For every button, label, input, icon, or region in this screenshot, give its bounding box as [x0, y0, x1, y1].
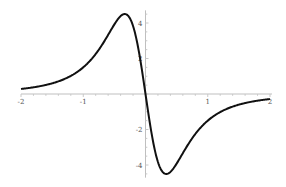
x-tick-label: -1 [80, 98, 87, 106]
line-chart: -2-11242-2-4 [0, 0, 286, 187]
x-tick-label: -2 [18, 98, 25, 106]
y-tick-label: -2 [136, 126, 143, 134]
y-tick-label: 4 [138, 20, 143, 28]
y-tick-label: -4 [136, 162, 143, 170]
x-tick-label: 1 [206, 98, 210, 106]
